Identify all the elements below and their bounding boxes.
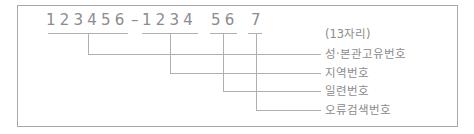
digit-group-2: 1234 [142, 11, 197, 29]
connector-vertical-4 [256, 34, 257, 110]
connector-horizontal-4 [256, 110, 321, 111]
label-group-1: 성·본관고유번호 [325, 47, 406, 61]
connector-vertical-1 [88, 34, 89, 54]
digit-group-3: 56 [211, 11, 239, 29]
underline-group-4 [248, 33, 262, 34]
connector-horizontal-3 [223, 91, 321, 92]
label-group-2: 지역번호 [325, 66, 369, 80]
connector-horizontal-1 [88, 54, 321, 55]
digit-group-4: 7 [251, 11, 265, 29]
connector-vertical-2 [170, 34, 171, 73]
connector-horizontal-2 [170, 73, 321, 74]
digit-separator: – [131, 11, 139, 29]
label-group-3: 일련번호 [325, 84, 369, 98]
label-group-4: 오류검색번호 [325, 103, 391, 117]
digit-count-note: (13자리) [325, 27, 371, 41]
connector-vertical-3 [223, 34, 224, 91]
digit-group-1: 123456 [46, 11, 128, 29]
